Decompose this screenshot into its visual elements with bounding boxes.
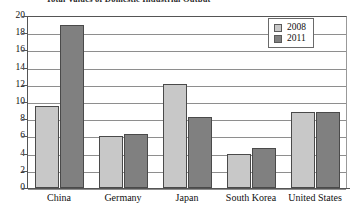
- legend-item: 2008: [274, 22, 306, 33]
- bar: [252, 148, 276, 188]
- legend-swatch-icon: [274, 35, 282, 43]
- bar: [291, 112, 315, 188]
- x-axis-category-labels: ChinaGermanyJapanSouth KoreaUnited State…: [27, 191, 347, 207]
- legend-label: 2008: [287, 22, 306, 33]
- bar: [99, 136, 123, 188]
- bar: [35, 106, 59, 188]
- bar-group: [99, 16, 148, 188]
- bar: [124, 134, 148, 188]
- x-axis-line: [22, 188, 350, 189]
- bar-chart-figure: Total Values of Domestic Industrial Outp…: [0, 0, 355, 218]
- gridline: [28, 189, 346, 190]
- chart-legend: 20082011: [268, 18, 314, 48]
- chart-title: Total Values of Domestic Industrial Outp…: [46, 0, 246, 2]
- y-axis: 20181614121086420: [0, 0, 25, 218]
- bar: [227, 154, 251, 188]
- legend-item: 2011: [274, 33, 306, 44]
- legend-label: 2011: [287, 33, 306, 44]
- x-axis-category-label: United States: [271, 191, 355, 204]
- bar: [316, 112, 340, 188]
- bar-group: [163, 16, 212, 188]
- legend-swatch-icon: [274, 24, 282, 32]
- bar: [60, 25, 84, 188]
- bar: [188, 117, 212, 188]
- bar-group: [35, 16, 84, 188]
- bar: [163, 84, 187, 188]
